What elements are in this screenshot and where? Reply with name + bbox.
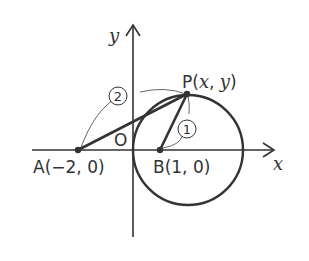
point-b [157,147,163,153]
ratio-mark-1: 1 [178,120,196,138]
x-axis-label: x [273,153,283,174]
arc-bp-top [188,96,189,114]
p-suffix: ) [230,72,237,92]
ratio-value-2: 2 [114,89,122,104]
apollonius-circle-diagram: 2 1 y x O A(−2, 0) B(1, 0) P(x, y) [0,0,309,261]
point-a-label: A(−2, 0) [33,157,105,177]
p-sep: , [209,72,220,92]
point-b-label: B(1, 0) [153,157,210,177]
axes [32,25,274,237]
p-prefix: P( [182,72,199,92]
ratio-value-1: 1 [183,122,191,137]
origin-label: O [114,130,127,150]
y-axis-label: y [108,25,120,46]
point-a [75,147,81,153]
ratio-mark-2: 2 [109,87,127,105]
point-p-label: P(x, y) [182,71,237,92]
p-x: x [199,71,209,92]
arc-ap-right [140,89,186,94]
